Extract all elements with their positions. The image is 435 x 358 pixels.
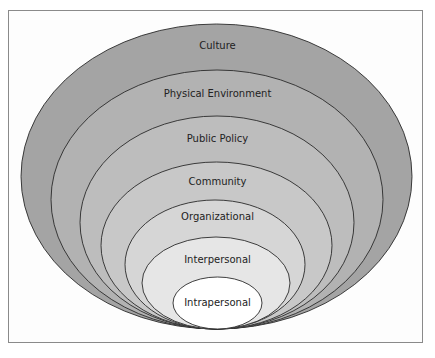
layer-label-culture: Culture xyxy=(0,40,435,51)
layer-label-community: Community xyxy=(0,176,435,187)
layer-label-physical-environment: Physical Environment xyxy=(0,88,435,99)
layer-label-public-policy: Public Policy xyxy=(0,133,435,144)
layer-label-organizational: Organizational xyxy=(0,211,435,222)
layer-label-interpersonal: Interpersonal xyxy=(0,254,435,265)
layer-label-intrapersonal: Intrapersonal xyxy=(0,297,435,308)
